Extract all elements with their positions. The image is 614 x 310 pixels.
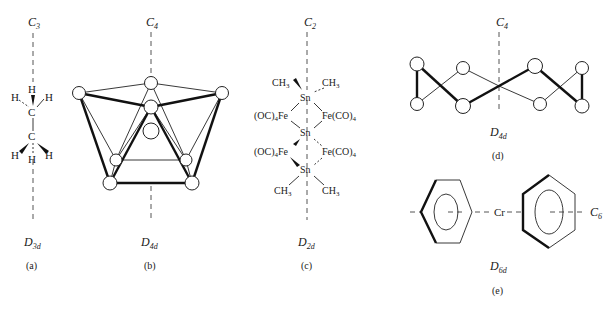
benzene-ring-left (421, 180, 472, 243)
ring-bond-front (417, 64, 463, 106)
edge (116, 83, 151, 160)
atom-h-top: H (28, 83, 36, 95)
fe-left-2: (OC)4Fe (254, 146, 289, 159)
point-group-d: D4d (489, 125, 508, 141)
atom-node (103, 176, 117, 190)
bond (37, 99, 44, 107)
ch3-top-right: CH3 (322, 77, 340, 90)
edge-front (151, 93, 222, 107)
sulfur-atom (528, 59, 543, 74)
atom-h-bottom: H (28, 153, 36, 165)
caption-c: (c) (301, 260, 312, 272)
panel-d: C4 D4d (d) (410, 15, 589, 162)
fe-left-1: (OC)4Fe (254, 110, 289, 123)
bond (314, 176, 324, 185)
wedge-bond (293, 139, 300, 146)
axis-label-c: C2 (304, 15, 316, 31)
symmetry-figure: C3 H H H C C H H H D3d (a) C4 (0, 0, 614, 310)
axis-label-b: C4 (146, 15, 158, 31)
atom-c-top: C (28, 106, 35, 118)
atom-node (185, 176, 199, 190)
atom-c-bottom: C (28, 130, 35, 142)
ch3-bottom-left: CH3 (274, 185, 292, 198)
caption-a: (a) (26, 260, 37, 272)
wedge-bond (31, 95, 35, 106)
point-group-a: D3d (23, 235, 42, 251)
wedge-bond (293, 78, 302, 90)
atom-node (180, 154, 192, 166)
sulfur-atom (575, 99, 589, 113)
atom-node (216, 87, 229, 100)
tin-atom-bottom: Sn (300, 164, 311, 175)
panel-b: C4 D4d (b) (73, 15, 229, 272)
atom-h-right-top: H (45, 91, 53, 103)
benzene-ring-right-front-edge (523, 175, 549, 248)
ring-bond (540, 68, 582, 104)
axis-label-e: C6 (590, 205, 602, 221)
caption-d: (d) (492, 150, 504, 162)
atom-h-left-top: H (11, 91, 19, 103)
point-group-b: D4d (140, 235, 159, 251)
panel-e: Cr C6 D6d (e) (410, 175, 602, 297)
bond (291, 103, 299, 111)
panel-c: C2 CH3 CH3 Sn (OC)4Fe Fe(CO)4 Sn (OC)4Fe… (254, 15, 357, 272)
atom-node (145, 77, 158, 90)
hashed-bond (314, 158, 322, 165)
sulfur-atom (456, 99, 471, 114)
point-group-e: D6d (489, 259, 508, 275)
sulfur-atom (576, 62, 589, 75)
ch3-top-left: CH3 (272, 77, 290, 90)
tin-atom-middle: Sn (300, 127, 311, 138)
bond (289, 176, 299, 185)
edge-front (79, 93, 110, 183)
bond (314, 103, 322, 111)
atom-node (110, 154, 122, 166)
wedge-bond (290, 157, 300, 167)
edge-front (192, 93, 222, 183)
sulfur-atom (410, 57, 424, 71)
atom-h-left-bottom: H (11, 149, 19, 161)
pi-ring-right (535, 190, 563, 234)
bond (291, 121, 300, 128)
tin-atom-top: Sn (300, 92, 311, 103)
sulfur-atom (457, 62, 470, 75)
panel-a: C3 H H H C C H H H D3d (a) (11, 15, 53, 272)
edge (79, 83, 151, 93)
caption-e: (e) (492, 285, 503, 297)
chromium-atom: Cr (494, 206, 505, 218)
hashed-bond (314, 88, 324, 92)
fe-right-2: Fe(CO)4 (322, 146, 357, 159)
point-group-c: D2d (297, 235, 316, 251)
sulfur-atom (411, 98, 424, 111)
edge-front (110, 107, 151, 183)
atom-node (144, 100, 158, 114)
pi-ring-left (434, 194, 458, 230)
bond (314, 121, 322, 128)
edge-front (151, 107, 192, 183)
hashed-bond (314, 139, 322, 146)
caption-b: (b) (144, 260, 156, 272)
edge-front (79, 93, 151, 107)
edge (151, 83, 222, 93)
sulfur-atom (534, 98, 547, 111)
axis-label-a: C3 (28, 15, 40, 31)
benzene-ring-right (523, 175, 575, 248)
ch3-bottom-right: CH3 (322, 185, 340, 198)
fe-right-1: Fe(CO)4 (322, 110, 357, 123)
central-atom (143, 123, 159, 139)
axis-label-d: C4 (496, 15, 508, 31)
atom-node (73, 87, 86, 100)
edge (151, 83, 186, 160)
